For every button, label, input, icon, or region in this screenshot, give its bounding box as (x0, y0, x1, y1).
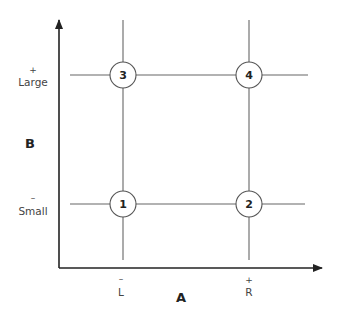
cell-label: 4 (245, 69, 253, 82)
y-level-low-sign: – (31, 193, 36, 203)
cell-3: 3 (110, 62, 136, 88)
x-level-low-sign: – (119, 274, 124, 284)
cell-1: 1 (110, 191, 136, 217)
x-level-high-sign: + (245, 275, 253, 285)
x-level-low-label: L (118, 286, 124, 298)
cell-2: 2 (236, 191, 262, 217)
y-level-low-label: Small (18, 205, 47, 217)
y-level-high-sign: + (29, 65, 37, 75)
y-axis-title: B (25, 136, 35, 151)
x-level-high-label: R (245, 286, 252, 298)
y-level-high-label: Large (18, 76, 48, 88)
cell-label: 3 (119, 69, 127, 82)
x-axis-title: A (176, 290, 186, 305)
factorial-diagram: 3 4 1 2 + Large B – Small – L + R A (0, 0, 338, 319)
cell-label: 2 (245, 198, 253, 211)
cell-4: 4 (236, 62, 262, 88)
gridlines (70, 20, 308, 260)
cell-label: 1 (119, 198, 127, 211)
